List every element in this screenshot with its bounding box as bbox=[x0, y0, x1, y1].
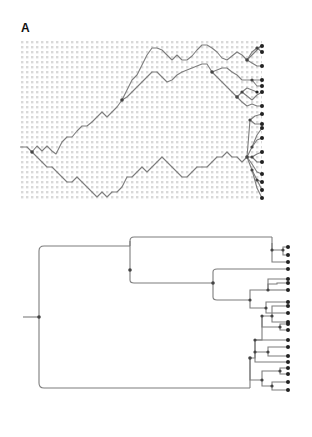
tree-tip-nodes bbox=[286, 245, 290, 392]
phylogenetic-tree bbox=[23, 237, 288, 390]
dotted-grid bbox=[20, 40, 262, 200]
figure-canvas bbox=[0, 0, 312, 437]
